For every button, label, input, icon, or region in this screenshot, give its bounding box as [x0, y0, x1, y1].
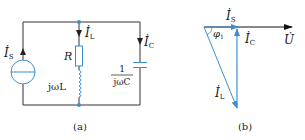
figure: İS İL R jωL İC 1 jωC (a): [0, 0, 305, 140]
inductor-label: jωL: [47, 81, 66, 92]
svg-text:1: 1: [119, 64, 125, 74]
caption-b: (b): [238, 121, 252, 132]
top-node: [77, 20, 81, 24]
phase-angle-arc: [207, 27, 212, 35]
capacitor-impedance-label: 1 jωC: [111, 64, 133, 87]
current-source: [11, 60, 35, 84]
resistor-label: R: [63, 50, 72, 63]
bottom-node: [77, 103, 81, 107]
source-current-arrow-icon: [20, 48, 26, 55]
resistor: [76, 46, 83, 66]
caption-a: (a): [73, 121, 87, 132]
source-current-label: İS: [3, 45, 14, 61]
capacitor-current-label: İC: [143, 34, 154, 50]
voltage-label: U̇: [284, 32, 295, 47]
inductor: [79, 70, 81, 97]
inductor-current-arrow-icon: [76, 30, 82, 37]
phase-angle-label: φ1: [213, 28, 224, 40]
capacitor-current-arrow-icon: [137, 38, 143, 45]
inductor-current-phasor-label: İL: [214, 85, 225, 101]
circuit-diagram-a: İS İL R jωL İC 1 jωC (a): [3, 20, 154, 132]
capacitor-current-phasor-label: İC: [244, 31, 255, 47]
svg-text:jωC: jωC: [112, 77, 130, 87]
inductor-current-label: İL: [84, 25, 95, 41]
phasor-diagram-b: U̇ İS İL İC φ1 (b): [204, 8, 295, 132]
source-current-phasor-label: İS: [225, 8, 236, 24]
capacitor: [133, 63, 147, 68]
